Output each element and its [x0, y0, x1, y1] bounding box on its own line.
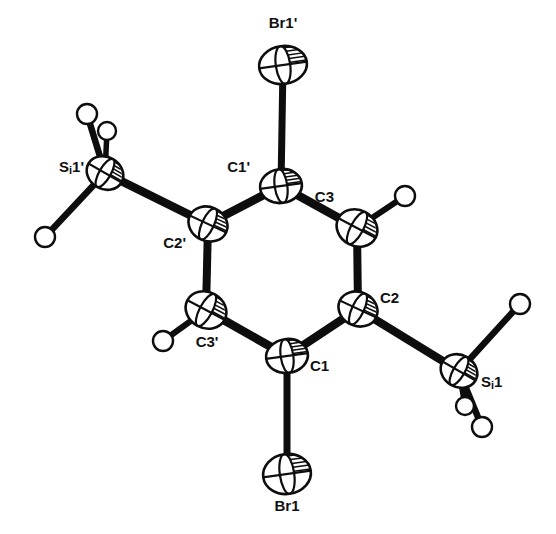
atom-label-C3p: C3' [196, 333, 219, 350]
hydrogen-sphere [456, 397, 474, 415]
atom-HSi1b [456, 397, 474, 415]
hydrogen-sphere [395, 186, 415, 206]
atom-HSi1pa [77, 104, 97, 124]
atom-H3p [153, 331, 173, 351]
ortep-figure: Br1'C1'C3C2C1C3'C2'Br1Si1Si1' [0, 0, 556, 534]
hydrogen-sphere [35, 227, 55, 247]
hydrogen-sphere [472, 417, 492, 437]
atom-label-Si1p: Si1' [59, 158, 84, 176]
atom-label-C3: C3 [315, 188, 334, 205]
hydrogen-sphere [98, 122, 116, 140]
atom-H3 [395, 186, 415, 206]
atom-label-Br1p: Br1' [269, 14, 298, 31]
atom-label-Br1: Br1 [274, 497, 299, 514]
atom-HSi1pb [98, 122, 116, 140]
atom-label-C1: C1 [310, 357, 329, 374]
atom-HSi1c [472, 417, 492, 437]
ortep-drawing-canvas: Br1'C1'C3C2C1C3'C2'Br1Si1Si1' [0, 0, 556, 534]
hydrogen-sphere [77, 104, 97, 124]
atom-label-C2: C2 [380, 289, 399, 306]
atom-HSi1a [510, 294, 530, 314]
atom-label-C1p: C1' [227, 158, 250, 175]
atom-label-C2p: C2' [163, 234, 186, 251]
hydrogen-sphere [510, 294, 530, 314]
hydrogen-sphere [153, 331, 173, 351]
atom-HSi1pc [35, 227, 55, 247]
